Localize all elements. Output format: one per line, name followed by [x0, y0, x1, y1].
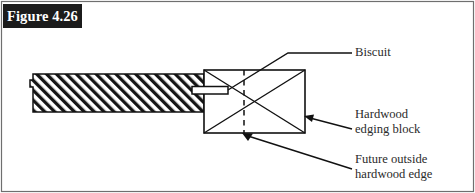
callout-biscuit-line1: Biscuit — [355, 45, 391, 60]
callout-hardwood-line2: edging block — [355, 122, 420, 137]
callout-future-outside-edge: Future outside hardwood edge — [355, 152, 432, 182]
figure-label-text: Figure 4.26 — [7, 9, 78, 24]
callout-future-line1: Future outside — [355, 152, 432, 167]
callout-biscuit: Biscuit — [355, 45, 391, 60]
biscuit-shape — [192, 87, 228, 95]
callout-future-line2: hardwood edge — [355, 167, 432, 182]
hatched-plywood-panel — [28, 72, 208, 116]
callout-hardwood-line1: Hardwood — [355, 107, 420, 122]
figure-label-plate: Figure 4.26 — [3, 4, 82, 28]
figure-container: Figure 4.26 Biscuit Hardwood edging bloc… — [0, 0, 475, 193]
panel-hatch-fill — [28, 72, 208, 116]
hardwood-edging-block — [204, 70, 305, 133]
biscuit-tenon — [192, 87, 228, 95]
callout-hardwood-edging-block: Hardwood edging block — [355, 107, 420, 137]
